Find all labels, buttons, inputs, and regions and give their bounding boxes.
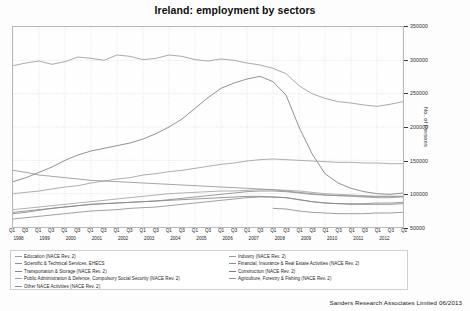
x-tick-2002Q1: Q1 — [113, 228, 119, 233]
x-tick-2008Q3: Q3 — [283, 228, 289, 233]
x-tick-2003Q1: Q1 — [140, 228, 146, 233]
legend-item-label: Education (NACE Rev. 2) — [24, 253, 76, 260]
x-year-2007: 2007 — [249, 236, 259, 241]
x-tick-2006Q1: Q1 — [218, 228, 224, 233]
x-tick-1998Q3: Q3 — [22, 228, 28, 233]
x-tick-2005Q1: Q1 — [192, 228, 198, 233]
x-tick-2009Q3: Q3 — [309, 228, 315, 233]
legend-item-label: Scientific & Technical Services, EHECS — [24, 260, 105, 267]
x-tick-2012Q3: Q3 — [388, 228, 394, 233]
legend-swatch-icon — [15, 271, 22, 272]
x-year-2006: 2006 — [222, 236, 232, 241]
x-tick-2005Q3: Q3 — [205, 228, 211, 233]
y-axis: 5000010000015000020000025000030000035000… — [404, 26, 448, 228]
x-tick-2010Q1: Q1 — [323, 228, 329, 233]
chart-root: Ireland: employment by sectors 500001000… — [0, 0, 470, 311]
legend-swatch-icon — [15, 286, 22, 287]
y-tick-250000: 250000 — [404, 90, 428, 96]
legend: Education (NACE Rev. 2)Scientific & Tech… — [10, 250, 408, 290]
x-tick-2004Q3: Q3 — [179, 228, 185, 233]
legend-item[interactable]: Transportation & Storage (NACE Rev. 2) — [15, 268, 227, 275]
x-year-1998: 1998 — [13, 236, 23, 241]
plot-area — [12, 26, 404, 228]
y-tick-350000: 350000 — [404, 23, 428, 29]
legend-item[interactable]: Agriculture, Forestry & Fishing (NACE Re… — [229, 275, 405, 282]
x-year-2003: 2003 — [144, 236, 154, 241]
x-tick-2012Q1: Q1 — [375, 228, 381, 233]
x-axis: Q1Q3Q1Q3Q1Q3Q1Q3Q1Q3Q1Q3Q1Q3Q1Q3Q1Q3Q1Q3… — [12, 228, 404, 248]
x-tick-2001Q3: Q3 — [100, 228, 106, 233]
x-tick-2003Q3: Q3 — [153, 228, 159, 233]
legend-item[interactable]: Education (NACE Rev. 2) — [15, 253, 227, 260]
x-year-2009: 2009 — [301, 236, 311, 241]
x-year-2001: 2001 — [92, 236, 102, 241]
legend-item-label: Transportation & Storage (NACE Rev. 2) — [24, 268, 107, 275]
legend-item-label: Public Administration & Defence, Compuls… — [24, 275, 180, 282]
x-tick-2011Q3: Q3 — [362, 228, 368, 233]
x-tick-1999Q1: Q1 — [35, 228, 41, 233]
legend-column-right: Industry (NACE Rev. 2)Financial, Insuran… — [229, 253, 405, 283]
legend-swatch-icon — [229, 278, 236, 279]
y-tick-150000: 150000 — [404, 158, 428, 164]
legend-item-label: Industry (NACE Rev. 2) — [238, 253, 286, 260]
legend-item-label: Other NACE Activities (NACE Rev. 2) — [24, 283, 100, 290]
x-tick-2000Q3: Q3 — [74, 228, 80, 233]
x-tick-2004Q1: Q1 — [166, 228, 172, 233]
y-tick-300000: 300000 — [404, 57, 428, 63]
legend-swatch-icon — [15, 263, 22, 264]
x-tick-1999Q3: Q3 — [48, 228, 54, 233]
page-title: Ireland: employment by sectors — [0, 4, 470, 16]
x-year-2000: 2000 — [66, 236, 76, 241]
legend-item-label: Financial, Insurance & Real Estate Activ… — [238, 260, 359, 267]
line-chart-svg — [13, 27, 403, 227]
x-tick-2000Q1: Q1 — [61, 228, 67, 233]
x-tick-1998Q1: Q1 — [9, 228, 15, 233]
y-tick-100000: 100000 — [404, 191, 428, 197]
x-tick-2013Q1: Q1 — [401, 228, 407, 233]
x-tick-2009Q1: Q1 — [296, 228, 302, 233]
legend-item[interactable]: Public Administration & Defence, Compuls… — [15, 275, 227, 282]
y-tick-50000: 50000 — [404, 225, 425, 231]
x-tick-2010Q3: Q3 — [336, 228, 342, 233]
legend-swatch-icon — [229, 256, 236, 257]
x-tick-2007Q3: Q3 — [257, 228, 263, 233]
legend-swatch-icon — [15, 278, 22, 279]
x-tick-2008Q1: Q1 — [270, 228, 276, 233]
footer-credit: Sanders Research Associates Limited 06/2… — [329, 299, 462, 306]
legend-item[interactable]: Industry (NACE Rev. 2) — [229, 253, 405, 260]
legend-swatch-icon — [229, 263, 236, 264]
legend-item[interactable]: Scientific & Technical Services, EHECS — [15, 260, 227, 267]
legend-item-label: Construction (NACE Rev. 2) — [238, 268, 295, 275]
legend-item[interactable]: Construction (NACE Rev. 2) — [229, 268, 405, 275]
x-year-2008: 2008 — [275, 236, 285, 241]
x-year-2004: 2004 — [170, 236, 180, 241]
x-year-2012: 2012 — [379, 236, 389, 241]
y-axis-title: No. of Persons — [423, 107, 429, 147]
x-year-2011: 2011 — [353, 236, 363, 241]
x-tick-2007Q1: Q1 — [244, 228, 250, 233]
x-year-2005: 2005 — [196, 236, 206, 241]
x-tick-2002Q3: Q3 — [127, 228, 133, 233]
x-tick-2001Q1: Q1 — [87, 228, 93, 233]
x-tick-2006Q3: Q3 — [231, 228, 237, 233]
legend-item[interactable]: Financial, Insurance & Real Estate Activ… — [229, 260, 405, 267]
legend-column-left: Education (NACE Rev. 2)Scientific & Tech… — [15, 253, 227, 290]
legend-item[interactable]: Other NACE Activities (NACE Rev. 2) — [15, 283, 227, 290]
x-year-2010: 2010 — [327, 236, 337, 241]
legend-swatch-icon — [229, 271, 236, 272]
x-year-2002: 2002 — [118, 236, 128, 241]
x-tick-2011Q1: Q1 — [349, 228, 355, 233]
legend-item-label: Agriculture, Forestry & Fishing (NACE Re… — [238, 275, 331, 282]
x-year-1999: 1999 — [40, 236, 50, 241]
legend-swatch-icon — [15, 256, 22, 257]
